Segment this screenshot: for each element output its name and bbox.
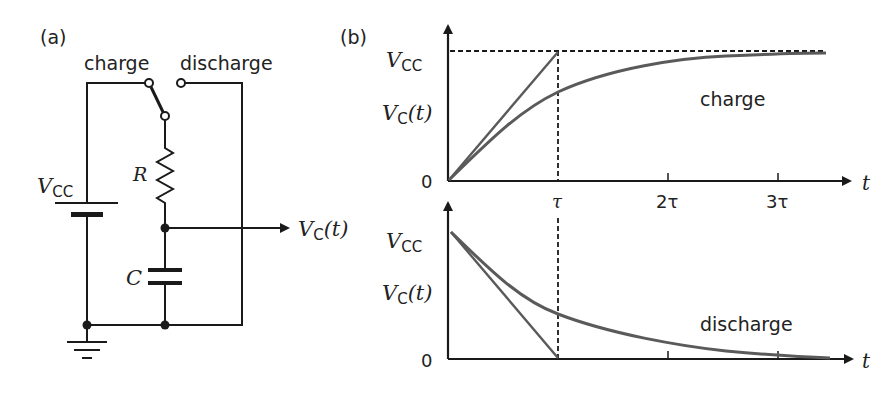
charge-zero-label: 0 xyxy=(421,171,432,192)
switch-pivot xyxy=(161,112,169,120)
tick-label-2tau: 2τ xyxy=(656,191,678,212)
discharge-vc-label: VC(t) xyxy=(382,281,432,308)
resistor-label: R xyxy=(132,163,147,185)
discharge-annotation: discharge xyxy=(700,313,793,335)
panel-a-circuit: (a) charge discharge R VC(t) C VCC xyxy=(37,26,348,358)
charge-label: charge xyxy=(84,52,149,74)
tick-label-3tau: 3τ xyxy=(766,191,788,212)
capacitor-ground-node xyxy=(161,321,170,330)
capacitor-plate-top xyxy=(148,268,182,272)
charge-vcc-label: VCC xyxy=(386,48,422,75)
discharge-vcc-label: VCC xyxy=(386,229,422,256)
charge-tangent-line xyxy=(449,52,558,180)
switch-lever xyxy=(151,87,163,112)
discharge-curve xyxy=(451,232,830,358)
rc-circuit-figure: (a) charge discharge R VC(t) C VCC xyxy=(0,0,896,393)
discharge-tangent-line xyxy=(451,232,558,358)
charge-wire xyxy=(87,83,145,203)
charge-annotation: charge xyxy=(700,88,765,110)
capacitor-plate-bottom xyxy=(148,281,182,285)
resistor-symbol xyxy=(157,120,173,270)
panel-b-label: (b) xyxy=(340,26,367,48)
charge-vc-label: VC(t) xyxy=(382,101,432,128)
discharge-plot: VCC VC(t) 0 discharge t xyxy=(382,203,871,373)
charge-t-label: t xyxy=(862,171,871,195)
discharge-zero-label: 0 xyxy=(421,350,432,371)
discharge-label: discharge xyxy=(180,52,273,74)
battery-short-plate xyxy=(71,212,103,217)
panel-a-label: (a) xyxy=(40,26,66,48)
source-label: VCC xyxy=(37,174,73,201)
output-label: VC(t) xyxy=(298,217,348,244)
discharge-terminal xyxy=(177,79,185,87)
charge-plot: VCC VC(t) 0 charge τ 2τ 3τ t xyxy=(382,26,871,212)
ground-icon xyxy=(67,342,107,358)
charge-terminal xyxy=(145,79,153,87)
charge-curve xyxy=(449,53,826,180)
tick-label-tau: τ xyxy=(552,191,563,212)
panel-b-plots: (b) VCC VC(t) 0 charge τ 2τ 3τ t xyxy=(340,26,871,373)
capacitor-label: C xyxy=(126,266,142,290)
discharge-t-label: t xyxy=(862,349,871,373)
